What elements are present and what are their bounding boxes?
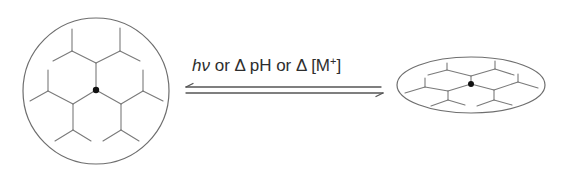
photon-energy-symbol: hν [192,56,210,75]
equilibrium-arrows [186,84,383,97]
or-text: or [271,56,296,75]
reverse-harpoon-arrow [186,84,381,88]
delta-symbol: Δ [235,56,245,75]
stimulus-condition-label: hν or Δ pH or Δ [M+] [192,56,341,76]
crosslink-point-icon [468,81,474,87]
or-text: or [210,56,235,75]
metal-ion-text: [M [306,56,330,75]
reaction-diagram [0,0,561,180]
swollen-network-bonds [30,28,163,141]
delta-symbol: Δ [296,56,306,75]
forward-harpoon-arrow [186,93,383,97]
swollen-network [23,18,169,164]
collapsed-network [397,57,545,113]
crosslink-point-icon [93,87,99,93]
ph-text: pH [245,56,271,75]
bracket-close-text: ] [336,56,341,75]
